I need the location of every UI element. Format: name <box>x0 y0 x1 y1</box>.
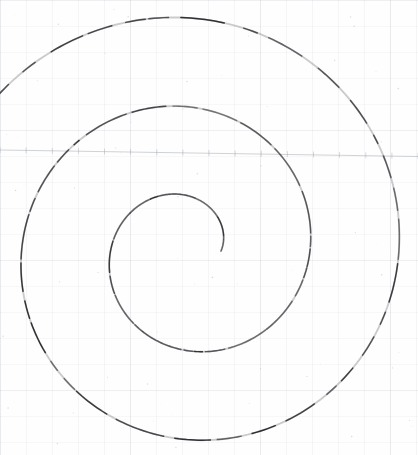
paper-specks <box>2 6 412 449</box>
spiral-stroke <box>0 17 399 440</box>
spiral-figure <box>0 0 418 455</box>
spiral-ghost-stroke <box>0 17 399 440</box>
scan-canvas <box>0 0 418 455</box>
